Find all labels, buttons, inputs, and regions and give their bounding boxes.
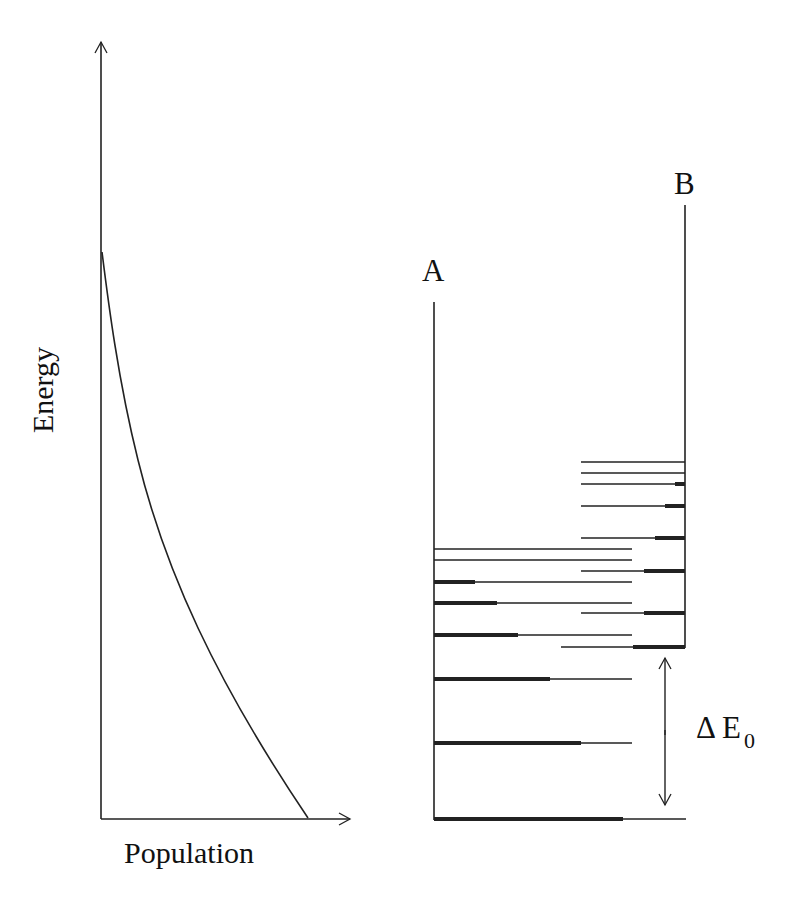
column-b-label: B <box>674 168 695 199</box>
diagram-graphics <box>0 0 808 900</box>
delta-e-symbol: Δ E <box>696 710 741 745</box>
population-plot <box>101 42 350 819</box>
levels-b <box>561 462 685 647</box>
population-curve <box>102 252 308 818</box>
energy-axis-label: Energy <box>28 347 58 433</box>
levels-a <box>434 549 686 819</box>
delta-e0-label: Δ E0 <box>696 712 755 743</box>
delta-e-subscript: 0 <box>744 728 755 753</box>
column-a-label: A <box>422 255 444 286</box>
level-scheme <box>434 205 686 820</box>
energy-level-diagram: Energy Population A B Δ E0 <box>0 0 808 900</box>
population-axis-label: Population <box>124 838 254 868</box>
